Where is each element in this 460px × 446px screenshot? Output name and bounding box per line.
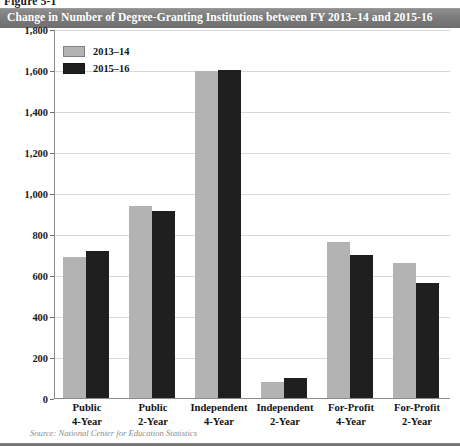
y-axis-tick-label: 600 — [4, 271, 48, 282]
bar-group — [187, 30, 253, 398]
legend-swatch-2013-14 — [63, 46, 85, 57]
y-axis-tick-mark — [50, 194, 54, 195]
bar[interactable] — [86, 251, 109, 398]
legend-item-2013-14: 2013–14 — [63, 44, 183, 59]
y-axis-tick-label: 1,800 — [4, 25, 48, 36]
chart-legend: 2013–14 2015–16 — [63, 44, 183, 78]
figure-title-bar: Change in Number of Degree-Granting Inst… — [0, 8, 460, 28]
figure-container: Figure 5-1 Change in Number of Degree-Gr… — [0, 0, 460, 446]
bar-series-layer — [55, 30, 450, 398]
bar[interactable] — [195, 71, 218, 398]
bar[interactable] — [350, 255, 373, 399]
bar[interactable] — [152, 211, 175, 398]
y-axis-tick-label: 1,200 — [4, 148, 48, 159]
bar[interactable] — [129, 206, 152, 398]
bar-group — [319, 30, 385, 398]
bar-group — [55, 30, 121, 398]
legend-label-2013-14: 2013–14 — [93, 46, 129, 57]
y-axis-tick-label: 1,600 — [4, 66, 48, 77]
page-title: Change in Number of Degree-Granting Inst… — [7, 11, 433, 24]
bar[interactable] — [63, 257, 86, 398]
bar[interactable] — [218, 70, 241, 398]
y-axis-tick-label: 200 — [4, 353, 48, 364]
chart-plot-area — [54, 30, 450, 399]
y-axis-tick-mark — [50, 112, 54, 113]
y-axis-tick-label: 1,000 — [4, 189, 48, 200]
x-axis-category-label: For-Profit4-Year — [318, 401, 384, 428]
bar[interactable] — [327, 242, 350, 398]
legend-label-2015-16: 2015–16 — [93, 63, 129, 74]
y-axis-tick-mark — [50, 235, 54, 236]
bar[interactable] — [261, 382, 284, 398]
y-axis-tick-mark — [50, 30, 54, 31]
source-note: Source: National Center for Education St… — [30, 428, 197, 438]
x-axis-category-label: Independent2-Year — [252, 401, 318, 428]
y-axis-tick-mark — [50, 276, 54, 277]
y-axis-tick-label: 800 — [4, 230, 48, 241]
bar-group — [253, 30, 319, 398]
legend-swatch-2015-16 — [63, 63, 85, 74]
y-axis-tick-mark — [50, 399, 54, 400]
legend-item-2015-16: 2015–16 — [63, 61, 183, 76]
y-axis-tick-mark — [50, 153, 54, 154]
x-axis-category-label: Public4-Year — [54, 401, 120, 428]
bar[interactable] — [284, 378, 307, 399]
x-axis-category-label: Independent4-Year — [186, 401, 252, 428]
y-axis-tick-label: 0 — [4, 394, 48, 405]
y-axis-tick-label: 1,400 — [4, 107, 48, 118]
y-axis-tick-mark — [50, 317, 54, 318]
bar[interactable] — [393, 263, 416, 398]
bar[interactable] — [416, 283, 439, 398]
bar-group — [385, 30, 451, 398]
y-axis-tick-mark — [50, 358, 54, 359]
y-axis-tick-mark — [50, 71, 54, 72]
bar-group — [121, 30, 187, 398]
x-axis-category-label: For-Profit2-Year — [384, 401, 450, 428]
y-axis-tick-label: 400 — [4, 312, 48, 323]
x-axis-category-label: Public2-Year — [120, 401, 186, 428]
figure-number: Figure 5-1 — [4, 0, 57, 7]
